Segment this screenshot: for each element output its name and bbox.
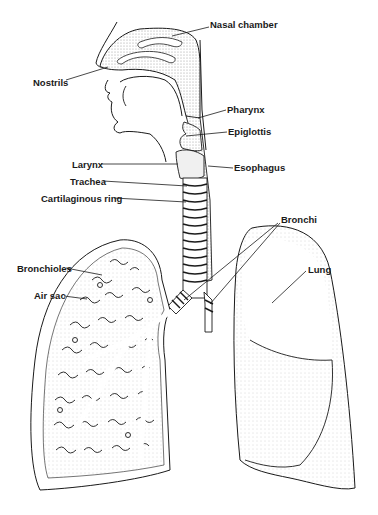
label-bronchioles: Bronchioles bbox=[17, 263, 72, 274]
label-trachea: Trachea bbox=[70, 176, 106, 187]
label-epiglottis: Epiglottis bbox=[228, 126, 271, 137]
larynx-shape bbox=[176, 122, 204, 179]
label-air-sac: Air sac bbox=[34, 290, 66, 301]
label-nasal-chamber: Nasal chamber bbox=[210, 19, 278, 30]
label-lung: Lung bbox=[308, 264, 331, 275]
label-esophagus: Esophagus bbox=[234, 162, 285, 173]
label-bronchi: Bronchi bbox=[281, 214, 317, 225]
left-lung-cutaway bbox=[31, 240, 170, 490]
nasal-chamber-shape bbox=[100, 28, 200, 119]
label-pharynx: Pharynx bbox=[227, 104, 265, 115]
label-nostrils: Nostrils bbox=[33, 77, 68, 88]
label-larynx: Larynx bbox=[72, 159, 103, 170]
right-lung-exterior bbox=[234, 226, 355, 489]
label-cartilaginous-ring: Cartilaginous ring bbox=[41, 193, 122, 204]
